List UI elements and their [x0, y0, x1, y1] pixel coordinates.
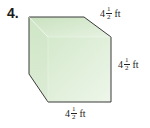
bottom-edge-label: 4 1 2 ft	[65, 106, 86, 121]
top-edge-label: 4 1 2 ft	[100, 6, 121, 21]
fraction: 1 2	[106, 6, 112, 21]
fraction: 1 2	[124, 57, 130, 72]
right-edge-label: 4 1 2 ft	[118, 57, 139, 72]
cube-front-face	[48, 37, 111, 102]
fraction: 1 2	[71, 106, 77, 121]
